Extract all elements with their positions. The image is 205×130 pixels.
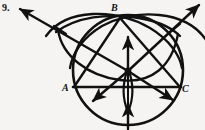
vertex-label-b: B [111, 3, 118, 13]
figure-canvas [0, 0, 205, 130]
vertex-label-c: C [182, 84, 189, 94]
figure-number-label: 9. [2, 3, 10, 13]
incenter-point [125, 68, 132, 75]
geometry-figure: 9. A B C [0, 0, 205, 130]
vertex-label-a: A [62, 83, 69, 93]
